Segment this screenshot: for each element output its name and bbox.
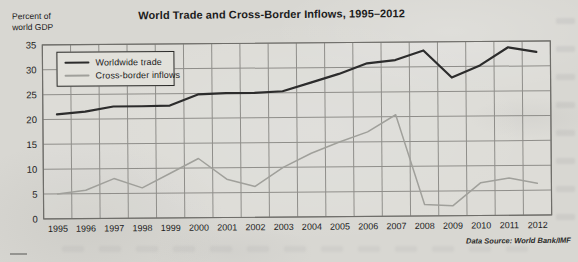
scan-bleedthrough-mark: [556, 18, 575, 24]
scan-bleedthrough-mark: [136, 246, 158, 252]
y-tick-label: 15: [26, 139, 37, 150]
x-tick-label: 2012: [528, 220, 548, 230]
scan-bleedthrough-mark: [556, 214, 575, 220]
legend-item-cross-border-inflows: Cross-border inflows: [65, 70, 174, 81]
scan-bleedthrough-mark: [62, 246, 84, 252]
x-tick-label: 1998: [132, 223, 152, 233]
legend-item-worldwide-trade: Worldwide trade: [64, 57, 173, 68]
scan-bleedthrough-mark: [432, 246, 454, 252]
scan-bleedthrough-mark: [556, 74, 575, 80]
chart-figure: World Trade and Cross-Border Inflows, 19…: [0, 0, 578, 262]
scan-bleedthrough-mark: [556, 186, 575, 192]
x-tick-label: 2004: [302, 222, 322, 232]
scan-bleedthrough-mark: [506, 246, 528, 252]
x-tick-label: 1999: [161, 223, 181, 233]
x-tick-label: 1996: [76, 224, 96, 234]
scan-bleedthrough-mark: [556, 130, 575, 136]
data-source-note: Data Source: World Bank/IMF: [466, 236, 571, 246]
scan-bleedthrough-mark: [556, 102, 575, 108]
scan-bleedthrough-mark: [99, 246, 121, 252]
scanned-page: World Trade and Cross-Border Inflows, 19…: [0, 0, 578, 262]
scan-bleedthrough-mark: [395, 246, 417, 252]
legend-label: Cross-border inflows: [96, 70, 181, 81]
scan-bleedthrough-mark: [284, 246, 306, 252]
chart-plot: 0510152025303519951996199719981999200020…: [0, 0, 578, 262]
scan-bleedthrough-mark: [556, 46, 575, 52]
x-tick-label: 2001: [217, 222, 237, 232]
x-tick-label: 2008: [415, 221, 435, 231]
scan-bleedthrough-mark: [210, 246, 232, 252]
x-tick-label: 2007: [386, 221, 406, 231]
x-tick-label: 2003: [274, 222, 294, 232]
x-tick-label: 2006: [358, 221, 378, 231]
x-tick-label: 2002: [245, 222, 265, 232]
scan-bleedthrough-mark: [247, 246, 269, 252]
x-tick-label: 2000: [189, 223, 209, 233]
cross-border-inflows-line-swatch-icon: [65, 75, 90, 77]
legend-label: Worldwide trade: [95, 57, 161, 68]
x-tick-label: 2011: [500, 220, 519, 230]
x-tick-label: 2005: [330, 222, 350, 232]
y-tick-label: 10: [27, 164, 38, 175]
x-tick-label: 2010: [471, 220, 491, 230]
y-tick-label: 30: [26, 64, 37, 75]
y-tick-label: 0: [32, 213, 37, 224]
y-tick-label: 25: [26, 89, 37, 100]
x-tick-label: 1995: [48, 224, 68, 234]
chart-legend: Worldwide trade Cross-border inflows: [56, 51, 174, 87]
scan-artifact-dash: [10, 253, 27, 255]
x-tick-label: 2009: [443, 221, 463, 231]
y-tick-label: 35: [26, 39, 37, 50]
scan-bleedthrough-mark: [321, 246, 343, 252]
scan-bleedthrough-mark: [556, 158, 575, 164]
y-tick-label: 5: [32, 189, 37, 200]
y-tick-label: 20: [26, 114, 37, 125]
worldwide-trade-line-swatch-icon: [64, 61, 89, 64]
scan-bleedthrough-mark: [358, 246, 380, 252]
x-tick-label: 1997: [104, 223, 124, 233]
scan-bleedthrough-mark: [469, 246, 491, 252]
scan-bleedthrough-mark: [173, 246, 195, 252]
